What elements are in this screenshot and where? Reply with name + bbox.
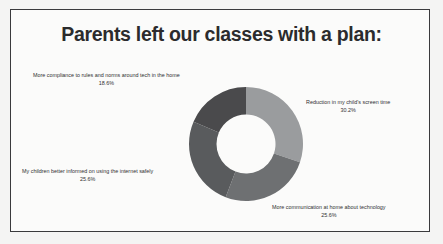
- donut-slice: [246, 87, 303, 162]
- donut-slice: [226, 153, 300, 201]
- donut-slice: [189, 122, 235, 198]
- slice-label-communication-text: More communication at home about technol…: [272, 203, 386, 211]
- slice-label-reduction-text: Reduction in my child's screen time: [306, 98, 390, 106]
- slice-label-informed-value: 25.6%: [22, 175, 153, 183]
- slice-label-compliance: More compliance to rules and norms aroun…: [33, 71, 180, 88]
- slice-label-compliance-text: More compliance to rules and norms aroun…: [33, 71, 180, 79]
- slice-label-communication-value: 25.6%: [272, 211, 386, 219]
- page-title: Parents left our classes with a plan:: [0, 24, 443, 45]
- slice-label-reduction: Reduction in my child's screen time 30.2…: [306, 98, 390, 115]
- slice-label-informed-text: My children better informed on using the…: [22, 167, 153, 175]
- slice-label-compliance-value: 18.6%: [33, 79, 180, 87]
- donut-slice-group: [189, 87, 303, 201]
- slice-label-informed: My children better informed on using the…: [22, 167, 153, 184]
- donut-chart-svg: [188, 86, 304, 202]
- donut-chart: [188, 86, 304, 202]
- slice-label-reduction-value: 30.2%: [306, 106, 390, 114]
- slice-label-communication: More communication at home about technol…: [272, 203, 386, 220]
- slide-canvas: Parents left our classes with a plan: Mo…: [0, 0, 443, 244]
